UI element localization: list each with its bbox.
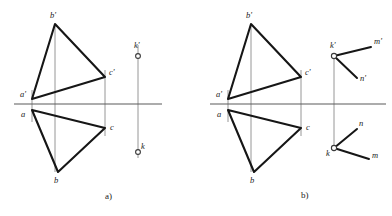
vertex-label-a-prime: a' (216, 89, 222, 99)
vertex-label-c-prime: c' (109, 67, 115, 77)
k-prime-point (331, 53, 336, 58)
k-point-label: k (141, 141, 145, 151)
vertex-label-a: a (217, 109, 221, 119)
ray-k-prime-n-prime-label: n' (360, 73, 366, 83)
k-point-label: k (326, 148, 330, 158)
ray-k-m (334, 148, 369, 159)
k-prime-point (136, 54, 141, 59)
ray-k-n (334, 129, 357, 148)
k-point (331, 145, 336, 150)
ray-k-prime-n-prime (334, 56, 357, 78)
vertex-label-c-prime: c' (305, 67, 311, 77)
vertex-label-b: b (54, 175, 58, 185)
vertex-label-b-prime: b' (50, 10, 56, 20)
vertex-label-a: a (21, 109, 25, 119)
panel-a-caption: a) (105, 191, 112, 201)
figure-root: k'kb'a'c'acba)m'n'nmk'kb'a'c'acbb) (0, 0, 392, 216)
ray-k-n-label: n (359, 118, 363, 128)
upper-triangle-abc-prime (228, 24, 301, 99)
technical-drawing-canvas: k'kb'a'c'acba)m'n'nmk'kb'a'c'acbb) (0, 0, 392, 216)
k-prime-point-label: k' (330, 40, 336, 50)
panels-group: k'kb'a'c'acba)m'n'nmk'kb'a'c'acbb) (14, 10, 386, 201)
lower-triangle-abc (32, 110, 105, 172)
panel-b: m'n'nmk'kb'a'c'acbb) (210, 10, 386, 200)
panel-b-caption: b) (301, 190, 309, 200)
vertex-label-a-prime: a' (20, 89, 26, 99)
vertex-label-c: c (306, 122, 310, 132)
ray-k-m-label: m (372, 150, 378, 160)
panel-a: k'kb'a'c'acba) (14, 10, 162, 201)
lower-triangle-abc (228, 110, 301, 172)
k-point (136, 150, 141, 155)
upper-triangle-abc-prime (32, 24, 105, 99)
vertex-label-b-prime: b' (246, 10, 252, 20)
ray-k-prime-m-prime (334, 47, 371, 56)
k-prime-point-label: k' (134, 40, 140, 50)
vertex-label-c: c (110, 122, 114, 132)
ray-k-prime-m-prime-label: m' (374, 36, 382, 46)
vertex-label-b: b (250, 175, 254, 185)
